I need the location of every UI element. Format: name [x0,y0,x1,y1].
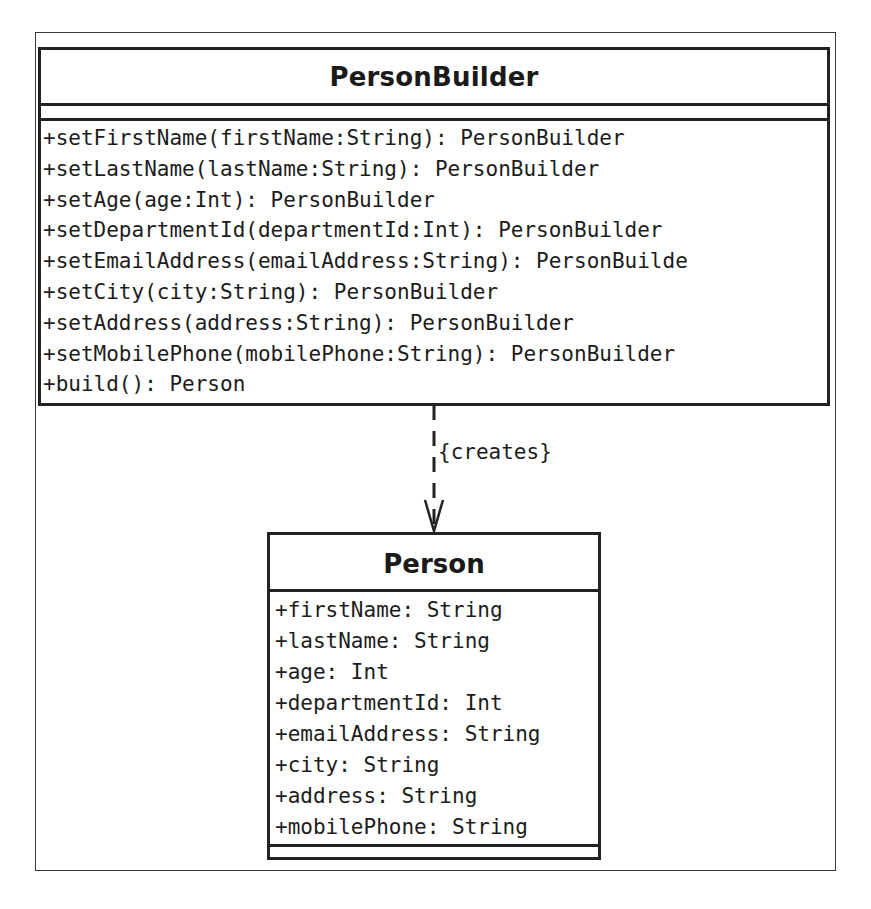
attribute-row: +firstName: String [275,595,598,626]
class-personbuilder[interactable]: PersonBuilder +setFirstName(firstName:St… [38,47,830,406]
methods-compartment-personbuilder: +setFirstName(firstName:String): PersonB… [41,121,827,400]
method-row: +setLastName(lastName:String): PersonBui… [43,154,827,185]
class-name-person: Person [270,535,598,592]
method-row: +setAge(age:Int): PersonBuilder [43,185,827,216]
method-row: +build(): Person [43,369,827,400]
attribute-row: +city: String [275,750,598,781]
attribute-row: +departmentId: Int [275,688,598,719]
method-row: +setDepartmentId(departmentId:Int): Pers… [43,215,827,246]
class-person[interactable]: Person +firstName: String +lastName: Str… [267,532,601,860]
attribute-row: +age: Int [275,657,598,688]
method-row: +setCity(city:String): PersonBuilder [43,277,827,308]
attribute-row: +mobilePhone: String [275,812,598,843]
attributes-compartment-person: +firstName: String +lastName: String +ag… [270,592,598,847]
method-row: +setAddress(address:String): PersonBuild… [43,308,827,339]
attribute-row: +emailAddress: String [275,719,598,750]
method-row: +setFirstName(firstName:String): PersonB… [43,123,827,154]
method-row: +setEmailAddress(emailAddress:String): P… [43,246,827,277]
class-name-personbuilder: PersonBuilder [41,50,827,106]
method-row: +setMobilePhone(mobilePhone:String): Per… [43,339,827,370]
methods-compartment-person [270,847,598,860]
attribute-row: +address: String [275,781,598,812]
attribute-row: +lastName: String [275,626,598,657]
relation-label-creates: {creates} [438,440,552,464]
attributes-compartment-personbuilder [41,106,827,121]
